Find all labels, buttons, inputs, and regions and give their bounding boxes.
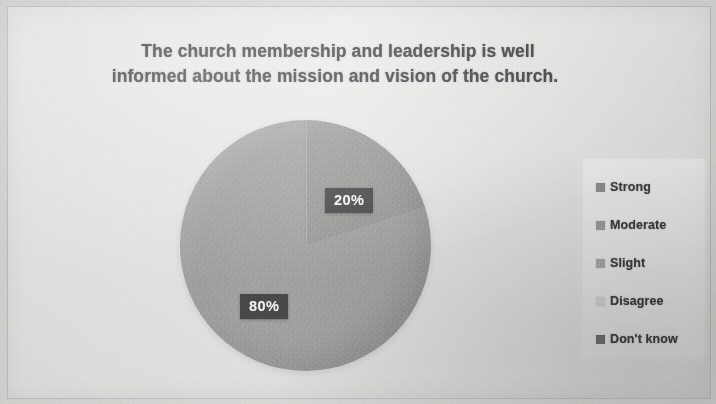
legend-swatch-icon <box>596 221 605 230</box>
legend-item-strong: Strong <box>596 179 651 195</box>
legend-item-moderate: Moderate <box>596 217 666 233</box>
legend-item-disagree: Disagree <box>596 293 664 309</box>
legend-swatch-icon <box>596 335 605 344</box>
chart-legend: Strong Moderate Slight Disagree Don't kn… <box>583 159 705 357</box>
legend-swatch-icon <box>596 297 605 306</box>
legend-label: Slight <box>610 256 645 270</box>
legend-label: Strong <box>610 180 651 194</box>
legend-item-slight: Slight <box>596 255 645 271</box>
legend-item-dont-know: Don't know <box>596 331 678 347</box>
legend-swatch-icon <box>596 183 605 192</box>
legend-swatch-icon <box>596 259 605 268</box>
pie-chart <box>180 120 431 371</box>
scanned-slide-photo: The church membership and leadership is … <box>0 0 716 404</box>
pie-data-label-20: 20% <box>325 188 373 213</box>
slide-board: The church membership and leadership is … <box>7 6 711 399</box>
legend-label: Disagree <box>610 294 664 308</box>
legend-label: Don't know <box>610 332 678 346</box>
pie-data-label-80: 80% <box>240 294 288 319</box>
legend-label: Moderate <box>610 218 666 232</box>
pie-slice-divider <box>306 120 307 246</box>
